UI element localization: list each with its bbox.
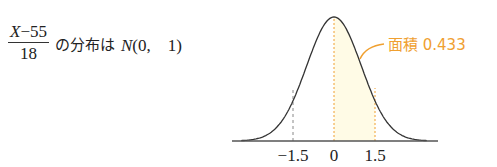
area-annotation: 面積 0.433 [388, 36, 466, 54]
tick-label-pos1-5: 1.5 [364, 146, 385, 165]
shaded-area [334, 17, 375, 141]
normal-curve-chart: −1.5 0 1.5 面積 0.433 [0, 0, 497, 167]
tick-label-neg1-5: −1.5 [278, 146, 309, 165]
tick-label-zero: 0 [330, 146, 339, 165]
annotation-leader [360, 44, 384, 59]
